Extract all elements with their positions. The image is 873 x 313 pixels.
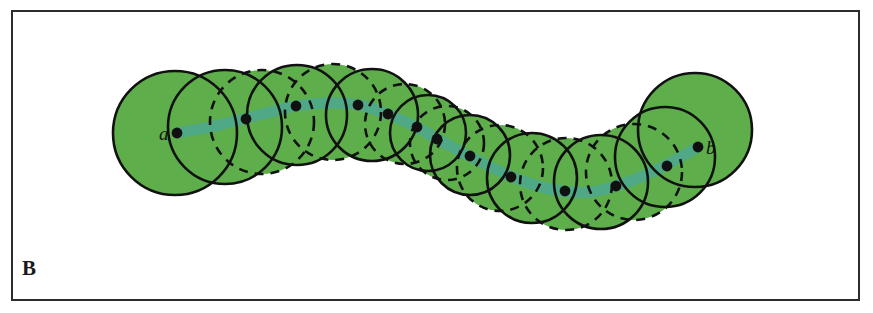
- path-center-dot: [506, 172, 517, 183]
- path-center-dot: [693, 142, 704, 153]
- path-center-dot: [560, 186, 571, 197]
- panel-label: B: [22, 258, 37, 279]
- path-center-dot: [291, 101, 302, 112]
- path-center-dot: [412, 122, 423, 133]
- path-center-dot: [241, 114, 252, 125]
- path-center-dot: [465, 151, 476, 162]
- endpoint-label-a: a: [159, 123, 169, 144]
- path-center-dot: [172, 128, 183, 139]
- figure-panel-b: ab B: [0, 0, 873, 313]
- path-center-dot: [383, 109, 394, 120]
- ball-covering-diagram: ab: [0, 0, 873, 313]
- path-center-dot: [353, 100, 364, 111]
- path-center-dot: [662, 161, 673, 172]
- path-center-dot: [611, 181, 622, 192]
- path-center-dot: [432, 134, 443, 145]
- endpoint-label-b: b: [706, 137, 716, 158]
